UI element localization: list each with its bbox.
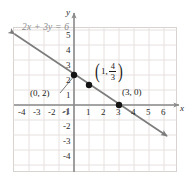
point-label-x-intercept: (3, 0) bbox=[122, 88, 142, 97]
fraction-denominator: 3 bbox=[111, 72, 115, 81]
y-tick-label-neg1: -1 bbox=[63, 107, 71, 116]
y-tick-label-3: 3 bbox=[66, 61, 71, 70]
graph-figure: 2x + 3y = 6 y x -4 -3 -2 -1 1 2 3 4 5 6 … bbox=[0, 0, 196, 189]
y-tick-label-1: 1 bbox=[66, 91, 71, 100]
y-axis-label: y bbox=[66, 8, 70, 17]
y-tick-label-neg3: -3 bbox=[63, 137, 71, 146]
x-tick-label-neg2: -2 bbox=[48, 108, 56, 117]
x-tick-label-neg3: -3 bbox=[33, 108, 41, 117]
fraction: 4 3 bbox=[109, 62, 116, 81]
y-tick-label-5: 5 bbox=[66, 31, 71, 40]
mid-point-x: 1, bbox=[101, 67, 109, 76]
point-label-mid: ( 1, 4 3 ) bbox=[94, 61, 124, 82]
x-tick-label-neg4: -4 bbox=[18, 108, 26, 117]
close-paren: ) bbox=[118, 61, 123, 82]
equation-label: 2x + 3y = 6 bbox=[22, 23, 69, 33]
x-tick-label-4: 4 bbox=[131, 108, 136, 117]
y-tick-label-neg2: -2 bbox=[63, 122, 71, 131]
point-y-intercept bbox=[71, 72, 77, 78]
fraction-numerator: 4 bbox=[111, 62, 115, 71]
point-label-y-intercept: (0, 2) bbox=[30, 89, 50, 98]
y-tick-label-neg4: -4 bbox=[63, 152, 71, 161]
y-tick-label-4: 4 bbox=[66, 46, 71, 55]
x-tick-label-2: 2 bbox=[101, 108, 106, 117]
x-tick-label-5: 5 bbox=[146, 108, 151, 117]
x-tick-label-1: 1 bbox=[86, 108, 91, 117]
x-axis-label: x bbox=[180, 104, 184, 113]
x-tick-label-6: 6 bbox=[161, 108, 166, 117]
x-tick-label-3: 3 bbox=[116, 108, 121, 117]
point-mid bbox=[86, 82, 92, 88]
y-tick-label-2: 2 bbox=[66, 76, 71, 85]
open-paren: ( bbox=[95, 61, 100, 82]
